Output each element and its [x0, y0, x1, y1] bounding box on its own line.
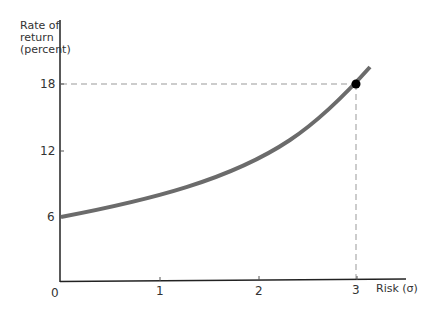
y-tick-label-18: 18 [40, 78, 55, 90]
x-tick-label-2: 2 [255, 285, 263, 297]
risk-return-curve [61, 67, 370, 217]
x-tick-label-0: 0 [51, 287, 59, 299]
x-tick-label-1: 1 [156, 285, 164, 297]
x-tick-label-3: 3 [352, 284, 360, 296]
x-axis-label: Risk (σ) [376, 283, 418, 295]
y-axis-label: Rate of return (percent) [20, 20, 71, 56]
y-tick-label-6: 6 [47, 211, 55, 223]
y-tick-label-12: 12 [40, 145, 55, 157]
x-axis [60, 279, 406, 282]
y-axis-label-line-3: (percent) [20, 44, 71, 56]
highlight-point [352, 80, 361, 89]
